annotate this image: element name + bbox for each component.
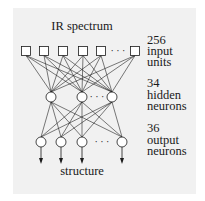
output-label-line2: neurons bbox=[147, 144, 187, 158]
input-node bbox=[59, 47, 68, 56]
input-node bbox=[97, 47, 106, 56]
output-arrows bbox=[39, 147, 124, 164]
hidden-node bbox=[107, 92, 117, 102]
arrow-down-icon bbox=[120, 158, 124, 164]
output-ellipsis: · · · bbox=[95, 137, 109, 147]
input-node bbox=[131, 47, 140, 56]
structure-label: structure bbox=[60, 164, 104, 178]
output-node bbox=[36, 137, 46, 147]
input-ellipsis: · · · bbox=[111, 46, 125, 56]
arrow-down-icon bbox=[39, 158, 43, 164]
output-node bbox=[56, 137, 66, 147]
diagram-title: IR spectrum bbox=[51, 19, 113, 33]
input-node bbox=[22, 47, 31, 56]
input-node bbox=[40, 47, 49, 56]
output-node bbox=[77, 137, 87, 147]
hidden-node bbox=[46, 92, 56, 102]
hidden-ellipsis: · · · bbox=[90, 92, 104, 102]
neural-network-diagram: · · ·· · ·· · · IR spectrum 256 input un… bbox=[0, 0, 205, 201]
hidden-node bbox=[77, 92, 87, 102]
input-label-line2: units bbox=[147, 55, 171, 69]
hidden-label-line2: neurons bbox=[147, 99, 187, 113]
output-node bbox=[117, 137, 127, 147]
input-node bbox=[79, 47, 88, 56]
